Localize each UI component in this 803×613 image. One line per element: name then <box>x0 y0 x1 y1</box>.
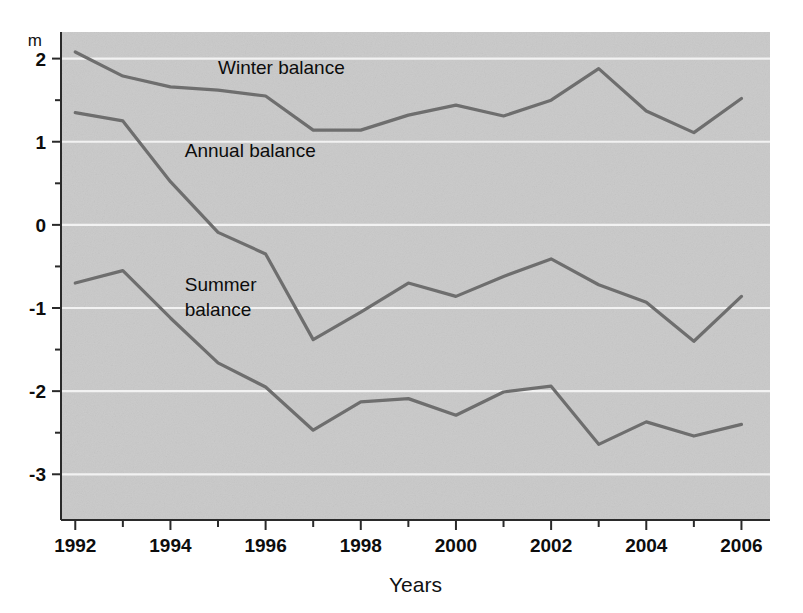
summer-balance-annotation: Summer <box>185 274 257 295</box>
x-tick-label: 2000 <box>435 535 477 556</box>
glacier-mass-balance-chart: 210-1-2-31992199419961998200020022004200… <box>0 0 803 613</box>
x-tick-label: 2004 <box>625 535 668 556</box>
x-tick-label: 2006 <box>720 535 762 556</box>
y-tick-label: 2 <box>35 49 46 70</box>
x-tick-label: 1994 <box>149 535 192 556</box>
y-tick-label: 1 <box>35 132 46 153</box>
annual-balance-annotation: Annual balance <box>185 140 316 161</box>
chart-canvas: 210-1-2-31992199419961998200020022004200… <box>0 0 803 613</box>
x-tick-label: 1996 <box>244 535 286 556</box>
winter-balance-annotation: Winter balance <box>218 57 345 78</box>
summer-balance-annotation-line2: balance <box>185 299 252 320</box>
y-tick-label: -3 <box>29 464 46 485</box>
y-tick-label: -2 <box>29 381 46 402</box>
plot-area-grain <box>61 32 770 520</box>
y-axis-unit-label: m <box>28 31 42 50</box>
y-tick-label: 0 <box>35 215 46 236</box>
x-tick-label: 1998 <box>340 535 382 556</box>
x-tick-label: 1992 <box>54 535 96 556</box>
x-axis-title: Years <box>389 573 442 596</box>
y-tick-label: -1 <box>29 298 46 319</box>
x-tick-label: 2002 <box>530 535 572 556</box>
